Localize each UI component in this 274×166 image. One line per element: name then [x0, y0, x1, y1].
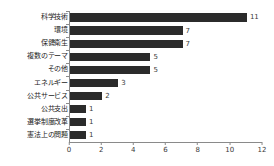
bar-row: 憲法上の問題1	[0, 129, 274, 142]
bar	[70, 105, 86, 113]
bar-row: 選挙制度改革1	[0, 116, 274, 129]
y-tick-mark	[66, 103, 69, 104]
bar-value-label: 1	[89, 131, 93, 139]
bar-row: 公共サービス2	[0, 90, 274, 103]
x-tick-mark	[133, 142, 134, 145]
x-tick-label: 10	[225, 146, 234, 155]
bar-with-value: 5	[70, 66, 158, 74]
category-label: 科学技術	[2, 13, 68, 22]
x-tick-label: 2	[99, 146, 103, 155]
bar-row: エネルギー3	[0, 76, 274, 89]
x-tick: 12	[258, 142, 267, 155]
x-tick: 4	[131, 142, 135, 155]
x-tick: 8	[195, 142, 199, 155]
y-tick-mark	[66, 90, 69, 91]
x-tick-label: 6	[163, 146, 167, 155]
y-tick-mark	[66, 11, 69, 12]
category-label: 公共サービス	[2, 92, 68, 101]
bar-row: 保健衛生7	[0, 37, 274, 50]
category-label: 保健衛生	[2, 39, 68, 48]
bar-with-value: 5	[70, 53, 158, 61]
bar-with-value: 1	[70, 118, 94, 126]
bar-value-label: 1	[89, 105, 93, 113]
category-label: エネルギー	[2, 79, 68, 88]
bar-chart: 科学技術11環境7保健衛生7複数のテーマ5その他5エネルギー3公共サービス2公共…	[0, 0, 274, 166]
bar	[70, 92, 102, 100]
x-tick: 6	[163, 142, 167, 155]
bar-row: 科学技術11	[0, 11, 274, 24]
bar	[70, 13, 247, 21]
y-tick-mark	[66, 116, 69, 117]
bar	[70, 53, 150, 61]
x-tick-label: 12	[258, 146, 267, 155]
x-tick-mark	[261, 142, 262, 145]
x-tick: 2	[99, 142, 103, 155]
bar-row: 複数のテーマ5	[0, 50, 274, 63]
bar-row: その他5	[0, 63, 274, 76]
x-tick: 0	[67, 142, 71, 155]
bar-value-label: 1	[89, 118, 93, 126]
bar-value-label: 3	[121, 79, 125, 87]
bar-value-label: 7	[186, 27, 190, 35]
bar-with-value: 1	[70, 131, 94, 139]
bar-value-label: 5	[153, 66, 157, 74]
x-tick-label: 0	[67, 146, 71, 155]
x-tick-mark	[229, 142, 230, 145]
bar-row: 環境7	[0, 24, 274, 37]
x-tick-label: 8	[195, 146, 199, 155]
x-tick-mark	[165, 142, 166, 145]
bar-rows: 科学技術11環境7保健衛生7複数のテーマ5その他5エネルギー3公共サービス2公共…	[0, 11, 274, 142]
category-label: 選挙制度改革	[2, 118, 68, 127]
category-label: 環境	[2, 26, 68, 35]
bar-value-label: 2	[105, 92, 109, 100]
bar-value-label: 7	[186, 40, 190, 48]
y-tick-mark	[66, 76, 69, 77]
bar-row: 公共支出1	[0, 103, 274, 116]
bar	[70, 118, 86, 126]
bar	[70, 40, 183, 48]
bar	[70, 66, 150, 74]
bar	[70, 79, 118, 87]
x-axis-ticks: 024681012	[69, 142, 262, 164]
bar-with-value: 11	[70, 13, 259, 21]
y-tick-mark	[66, 24, 69, 25]
bar-with-value: 7	[70, 40, 190, 48]
bar-value-label: 5	[153, 53, 157, 61]
bar-value-label: 11	[250, 13, 259, 21]
bar	[70, 131, 86, 139]
bar	[70, 26, 183, 34]
bar-with-value: 7	[70, 26, 190, 34]
bar-with-value: 3	[70, 79, 126, 87]
x-tick: 10	[225, 142, 234, 155]
x-tick-label: 4	[131, 146, 135, 155]
y-tick-mark	[66, 129, 69, 130]
x-tick-mark	[101, 142, 102, 145]
x-tick-mark	[69, 142, 70, 145]
category-label: 公共支出	[2, 105, 68, 114]
category-label: 憲法上の問題	[2, 131, 68, 140]
category-label: 複数のテーマ	[2, 52, 68, 61]
category-label: その他	[2, 65, 68, 74]
bar-with-value: 2	[70, 92, 110, 100]
x-tick-mark	[197, 142, 198, 145]
bar-with-value: 1	[70, 105, 94, 113]
